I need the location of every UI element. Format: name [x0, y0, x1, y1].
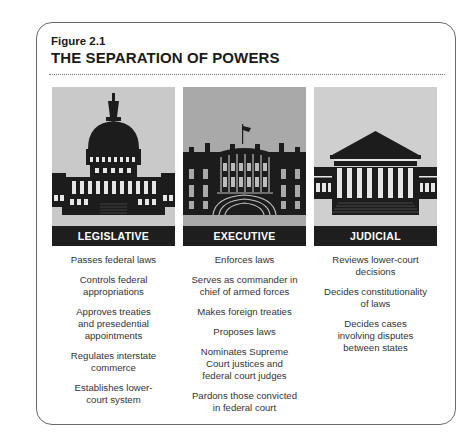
power-item: Pardons those convicted in federal court	[183, 390, 306, 414]
white-house-icon	[183, 87, 306, 226]
power-item: Makes foreign treaties	[183, 306, 306, 318]
power-item: Proposes laws	[183, 326, 306, 338]
power-item: Reviews lower-court decisions	[314, 254, 437, 278]
figure-frame: Figure 2.1 THE SEPARATION OF POWERS	[36, 22, 456, 425]
figure-title: THE SEPARATION OF POWERS	[51, 49, 280, 66]
power-item: Controls federal appropriations	[52, 274, 175, 298]
dotted-divider	[49, 74, 445, 75]
branch-legislative: LEGISLATIVE Passes federal laws Controls…	[52, 87, 175, 414]
power-item: Decides cases involving disputes between…	[314, 318, 437, 354]
power-item: Establishes lower- court system	[52, 382, 175, 406]
supreme-court-icon	[314, 87, 437, 226]
power-item: Nominates Supreme Court justices and fed…	[183, 346, 306, 382]
power-item: Serves as commander in chief of armed fo…	[183, 274, 306, 298]
branch-executive: EXECUTIVE Enforces laws Serves as comman…	[183, 87, 306, 422]
power-item: Approves treaties and presedential appoi…	[52, 306, 175, 342]
capitol-building-icon	[52, 87, 175, 226]
power-item: Decides constitutionality of laws	[314, 286, 437, 310]
power-item: Regulates interstate commerce	[52, 350, 175, 374]
figure-number: Figure 2.1	[51, 35, 105, 47]
branch-judicial: JUDICIAL Reviews lower-court decisions D…	[314, 87, 437, 362]
power-item: Passes federal laws	[52, 254, 175, 266]
power-item: Enforces laws	[183, 254, 306, 266]
branch-label: EXECUTIVE	[183, 226, 306, 246]
branch-label: JUDICIAL	[314, 226, 437, 246]
branch-label: LEGISLATIVE	[52, 226, 175, 246]
